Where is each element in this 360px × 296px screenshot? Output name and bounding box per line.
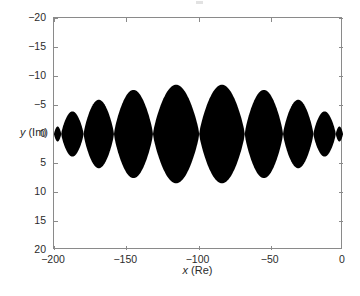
y-axis-title-unit: (Im): [25, 126, 48, 138]
x-tick-label: 0: [320, 254, 360, 264]
x-tick-label: −50: [248, 254, 292, 264]
y-axis-title: y (Im): [2, 126, 48, 138]
x-tick-label-group: −200−150−100−500: [0, 0, 360, 296]
x-tick-label: −200: [31, 254, 75, 264]
x-tick-label: −150: [103, 254, 147, 264]
figure-canvas: −20−15−10−505101520 −200−150−100−500 x (…: [0, 0, 360, 296]
x-axis-title: x (Re): [53, 264, 342, 276]
x-tick-label: −100: [176, 254, 220, 264]
x-axis-title-unit: (Re): [188, 264, 212, 276]
